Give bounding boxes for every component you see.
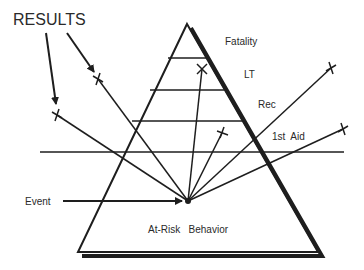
level-label-rec: Rec [258,99,276,110]
event-label: Event [25,196,51,207]
level-label-lt: LT [244,69,255,80]
ray-3 [188,69,202,201]
ray-5 [188,68,331,201]
level-label-first-aid: 1st Aid [272,131,305,142]
pyramid-shadow [82,28,322,256]
results-label: RESULTS [13,11,86,28]
base-label: At-Risk Behavior [148,224,229,235]
result-marks [52,62,348,138]
results-arrow-1 [46,33,56,104]
ray-6 [188,129,343,201]
ray-4 [188,133,222,201]
x-mark-icon [217,127,228,138]
results-arrow-2 [67,33,94,72]
ray-2 [57,115,188,201]
x-mark-icon [52,109,62,121]
level-label-fatality: Fatality [225,36,257,47]
pyramid-diagram: RESULTS Fatality LT Rec 1st Aid At-Risk … [0,0,364,270]
event-point [185,198,191,204]
x-mark-icon [338,123,348,135]
